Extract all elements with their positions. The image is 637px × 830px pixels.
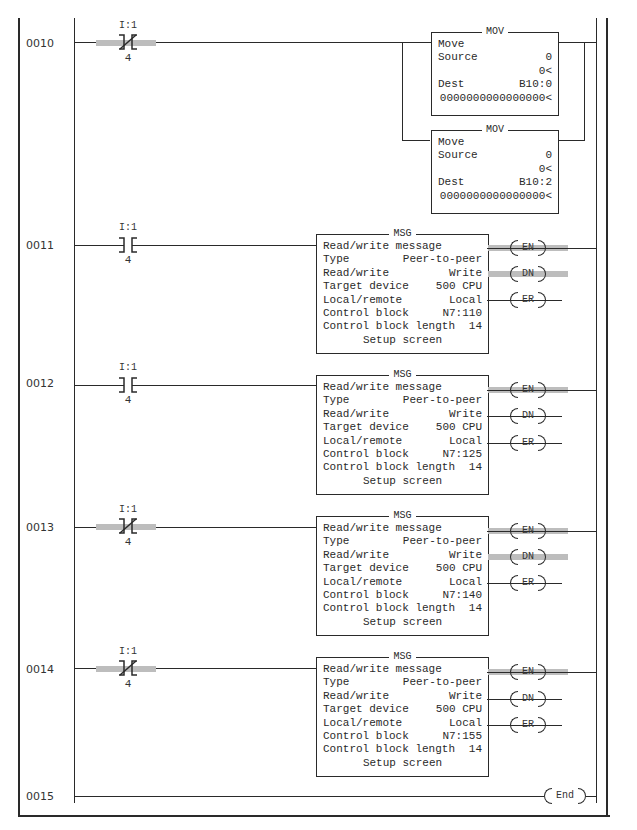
dest-label: Dest bbox=[438, 176, 464, 189]
setup-screen-link[interactable]: Setup screen bbox=[363, 757, 442, 770]
rung-wire bbox=[75, 796, 596, 797]
rw-label: Read/write bbox=[323, 690, 389, 703]
dest-address: B10:2 bbox=[519, 176, 552, 189]
type-label: Type bbox=[323, 676, 349, 689]
mov-label: Move bbox=[438, 38, 464, 51]
normally-open-contact-icon[interactable] bbox=[117, 237, 139, 253]
left-power-rail bbox=[74, 18, 75, 803]
target-value: 500 CPU bbox=[436, 280, 482, 293]
cb-value: N7:140 bbox=[442, 589, 482, 602]
type-value: Peer-to-peer bbox=[403, 253, 482, 266]
source-label: Source bbox=[438, 149, 478, 162]
cbl-value: 14 bbox=[469, 461, 482, 474]
contact-bit: 4 bbox=[108, 678, 148, 690]
cb-value: N7:125 bbox=[442, 448, 482, 461]
rw-label: Read/write bbox=[323, 408, 389, 421]
branch-wire bbox=[402, 140, 430, 141]
normally-open-contact-icon[interactable] bbox=[117, 377, 139, 393]
coil-dn[interactable]: DN bbox=[510, 691, 546, 707]
lr-value: Local bbox=[449, 294, 482, 307]
rw-value: Write bbox=[449, 690, 482, 703]
coil-er[interactable]: ER bbox=[510, 575, 546, 591]
rw-label: Read/write bbox=[323, 267, 389, 280]
type-label: Type bbox=[323, 394, 349, 407]
lr-label: Local/remote bbox=[323, 294, 402, 307]
contact-address: I:1 bbox=[108, 504, 148, 515]
branch-wire bbox=[557, 140, 585, 141]
rw-value: Write bbox=[449, 408, 482, 421]
normally-closed-contact-icon[interactable] bbox=[117, 518, 139, 534]
rw-label: Read/write bbox=[323, 549, 389, 562]
target-value: 500 CPU bbox=[436, 562, 482, 575]
cbl-value: 14 bbox=[469, 602, 482, 615]
rung-number: 0013 bbox=[26, 521, 54, 534]
setup-screen-link[interactable]: Setup screen bbox=[363, 475, 442, 488]
cbl-value: 14 bbox=[469, 743, 482, 756]
dest-label: Dest bbox=[438, 78, 464, 91]
right-power-rail bbox=[596, 18, 597, 803]
msg-instruction[interactable]: MSG Read/write message TypePeer-to-peer … bbox=[316, 516, 489, 636]
msg-instruction[interactable]: MSG Read/write message TypePeer-to-peer … bbox=[316, 375, 489, 495]
branch-right bbox=[584, 42, 585, 141]
rw-value: Write bbox=[449, 267, 482, 280]
branch-wire bbox=[402, 42, 430, 43]
lr-value: Local bbox=[449, 717, 482, 730]
normally-closed-contact-icon[interactable] bbox=[117, 660, 139, 676]
coil-en[interactable]: EN bbox=[510, 382, 546, 398]
mov-instruction[interactable]: MOV Move Source0 0< DestB10:2 0000000000… bbox=[431, 130, 559, 214]
contact-bit: 4 bbox=[108, 536, 148, 548]
msg-header: Read/write message bbox=[323, 381, 442, 394]
target-label: Target device bbox=[323, 280, 409, 293]
instruction-title: MSG bbox=[389, 510, 415, 521]
instruction-title: MOV bbox=[482, 124, 508, 135]
instruction-title: MSG bbox=[389, 228, 415, 239]
target-label: Target device bbox=[323, 421, 409, 434]
dest-live-value: 0000000000000000< bbox=[440, 190, 552, 203]
setup-screen-link[interactable]: Setup screen bbox=[363, 616, 442, 629]
rung-number: 0012 bbox=[26, 377, 54, 390]
msg-header: Read/write message bbox=[323, 522, 442, 535]
rung-number: 0010 bbox=[26, 37, 54, 50]
type-value: Peer-to-peer bbox=[403, 676, 482, 689]
coil-en[interactable]: EN bbox=[510, 664, 546, 680]
contact-address: I:1 bbox=[108, 646, 148, 657]
msg-header: Read/write message bbox=[323, 663, 442, 676]
contact-address: I:1 bbox=[108, 20, 148, 31]
coil-en[interactable]: EN bbox=[510, 240, 546, 256]
coil-dn[interactable]: DN bbox=[510, 549, 546, 565]
source-value: 0 bbox=[545, 149, 552, 162]
setup-screen-link[interactable]: Setup screen bbox=[363, 334, 442, 347]
coil-dn[interactable]: DN bbox=[510, 408, 546, 424]
msg-instruction[interactable]: MSG Read/write message TypePeer-to-peer … bbox=[316, 234, 489, 354]
lr-value: Local bbox=[449, 576, 482, 589]
contact-address: I:1 bbox=[108, 362, 148, 373]
dest-live-value: 0000000000000000< bbox=[440, 92, 552, 105]
cb-label: Control block bbox=[323, 448, 409, 461]
instruction-title: MOV bbox=[482, 26, 508, 37]
type-value: Peer-to-peer bbox=[403, 394, 482, 407]
cb-label: Control block bbox=[323, 307, 409, 320]
rw-value: Write bbox=[449, 549, 482, 562]
coil-en[interactable]: EN bbox=[510, 523, 546, 539]
coil-er[interactable]: ER bbox=[510, 717, 546, 733]
source-live-value: 0< bbox=[539, 163, 552, 176]
mov-instruction[interactable]: MOV Move Source0 0< DestB10:0 0000000000… bbox=[431, 32, 559, 116]
rung-number: 0011 bbox=[26, 239, 54, 252]
cb-label: Control block bbox=[323, 589, 409, 602]
instruction-title: MSG bbox=[389, 651, 415, 662]
normally-closed-contact-icon[interactable] bbox=[117, 34, 139, 50]
cb-value: N7:110 bbox=[442, 307, 482, 320]
lr-label: Local/remote bbox=[323, 717, 402, 730]
lr-label: Local/remote bbox=[323, 576, 402, 589]
cbl-label: Control block length bbox=[323, 602, 455, 615]
cbl-label: Control block length bbox=[323, 320, 455, 333]
rung-wire bbox=[75, 245, 316, 246]
cb-label: Control block bbox=[323, 730, 409, 743]
mov-label: Move bbox=[438, 136, 464, 149]
coil-er[interactable]: ER bbox=[510, 435, 546, 451]
cbl-value: 14 bbox=[469, 320, 482, 333]
msg-instruction[interactable]: MSG Read/write message TypePeer-to-peer … bbox=[316, 657, 489, 777]
coil-er[interactable]: ER bbox=[510, 292, 546, 308]
coil-dn[interactable]: DN bbox=[510, 266, 546, 282]
contact-bit: 4 bbox=[108, 52, 148, 64]
